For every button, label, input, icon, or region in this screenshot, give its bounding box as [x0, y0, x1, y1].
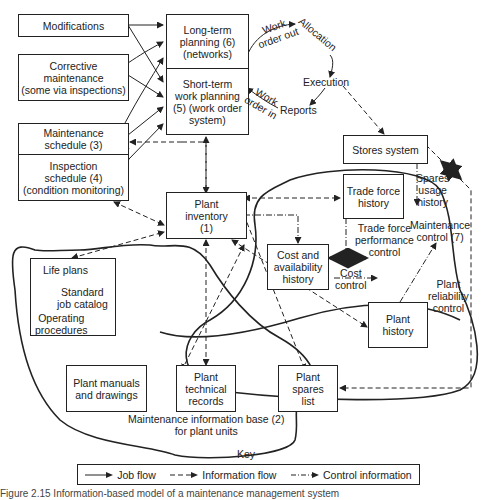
- inspection-schedule-box: Inspection schedule (4) (condition monit…: [18, 154, 129, 201]
- solid-arrow-icon: [85, 471, 113, 479]
- plant-spares-list-box: Plant spares list: [278, 365, 338, 412]
- dashed-arrow-icon: [170, 471, 198, 479]
- trade-force-history-box: Trade force history: [343, 174, 404, 219]
- maintenance-control-label: Maintenance control (7): [410, 219, 470, 243]
- key-title: Key: [237, 448, 255, 460]
- maintenance-schedule-box: Maintenance schedule (3): [18, 123, 129, 155]
- spares-usage-history-label: Spares usage history: [416, 172, 449, 208]
- modifications-box: Modifications: [18, 14, 129, 37]
- short-term-planning-box: Short-term work planning (5) (work order…: [166, 68, 249, 135]
- plant-inventory-box: Plant inventory (1): [166, 192, 247, 239]
- info-base-label: Maintenance information base (2) for pla…: [128, 413, 284, 437]
- dash-dot-arrow-icon: [291, 471, 319, 479]
- cost-availability-history-box: Cost and availability history: [267, 244, 329, 290]
- plant-history-box: Plant history: [368, 302, 428, 348]
- reports-label: Reports: [280, 104, 317, 116]
- long-term-planning-box: Long-term planning (6) (networks): [166, 14, 249, 69]
- legend-information-flow: Information flow: [202, 469, 276, 481]
- plant-technical-records-box: Plant technical records: [176, 365, 236, 412]
- standard-job-catalog-label: Standard job catalog: [57, 286, 108, 310]
- trade-force-performance-label: Trade force performance control: [355, 222, 414, 258]
- figure-caption: Figure 2.15 Information-based model of a…: [0, 488, 339, 499]
- plant-reliability-control-label: Plant reliability control: [428, 278, 469, 314]
- legend: Job flow Information flow Control inform…: [77, 464, 420, 485]
- stores-system-box: Stores system: [343, 135, 428, 164]
- cost-control-label: Cost control: [335, 267, 367, 291]
- execution-label: Execution: [303, 76, 349, 88]
- corrective-maintenance-box: Corrective maintenance (some via inspect…: [18, 54, 129, 101]
- operating-procedures-label: Operating procedures: [35, 312, 88, 336]
- life-plans-label: Life plans: [43, 264, 88, 276]
- legend-control-information: Control information: [323, 469, 412, 481]
- plant-manuals-box: Plant manuals and drawings: [66, 365, 147, 412]
- legend-job-flow: Job flow: [117, 469, 156, 481]
